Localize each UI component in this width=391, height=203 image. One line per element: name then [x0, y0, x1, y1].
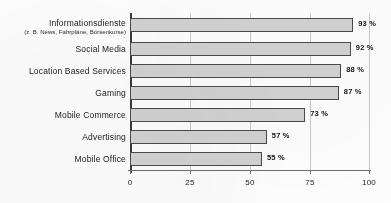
bar-informationsdienste [130, 18, 353, 32]
bar-value-location-based-services: 88 % [346, 65, 364, 74]
x-tick-label-75: 75 [305, 178, 314, 187]
bar-advertising [130, 130, 267, 144]
bar-value-gaming: 87 % [344, 87, 362, 96]
bar-location-based-services [130, 64, 341, 78]
x-tick-75 [310, 170, 311, 174]
category-label-location-based-services: Location Based Services [29, 66, 126, 76]
x-tick-label-50: 50 [245, 178, 254, 187]
bar-value-social-media: 92 % [356, 43, 374, 52]
x-tick-100 [369, 170, 370, 174]
x-tick-50 [250, 170, 251, 174]
bar-value-advertising: 57 % [272, 131, 290, 140]
bar-value-mobile-office: 55 % [267, 153, 285, 162]
bar-value-mobile-commerce: 73 % [310, 109, 328, 118]
category-label-informationsdienste: Informationsdienste (z. B. News, Fahrplä… [24, 18, 126, 35]
category-label-social-media: Social Media [76, 44, 126, 54]
bar-mobile-commerce [130, 108, 305, 122]
bar-chart: 0 25 50 75 100 Informationsdienste (z. B… [0, 0, 391, 203]
x-tick-label-100: 100 [362, 178, 376, 187]
gridline-100 [369, 13, 370, 170]
bar-social-media [130, 42, 351, 56]
category-label-text: Informationsdienste [49, 18, 126, 28]
x-tick-0 [130, 170, 131, 174]
x-tick-25 [190, 170, 191, 174]
category-label-mobile-office: Mobile Office [75, 154, 126, 164]
x-tick-label-25: 25 [185, 178, 194, 187]
bar-value-informationsdienste: 93 % [358, 19, 376, 28]
category-label-gaming: Gaming [95, 88, 126, 98]
bar-mobile-office [130, 152, 262, 166]
x-tick-label-0: 0 [128, 178, 133, 187]
category-label-mobile-commerce: Mobile Commerce [55, 110, 126, 120]
bar-gaming [130, 86, 339, 100]
category-label-advertising: Advertising [82, 132, 126, 142]
category-sublabel-text: (z. B. News, Fahrpläne, Börsenkurse) [24, 29, 126, 35]
